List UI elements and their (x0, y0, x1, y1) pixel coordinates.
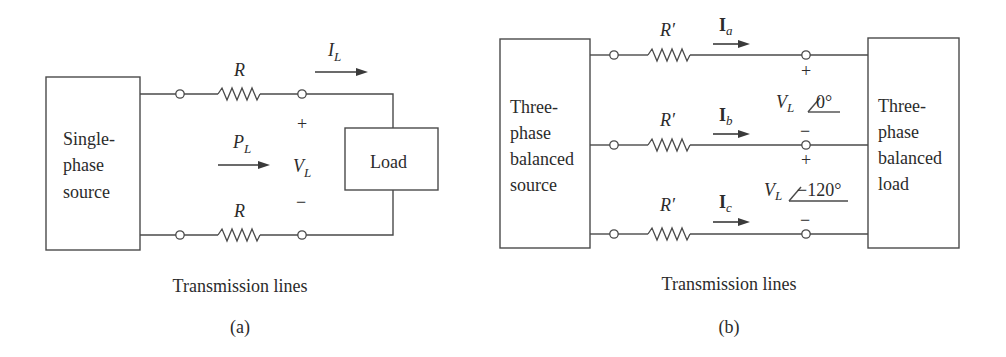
load-b-line4: load (878, 174, 909, 194)
current-a-label: Ia (719, 15, 733, 38)
terminal-b-left (610, 141, 618, 149)
source-label-line3: source (63, 182, 110, 202)
voltage-bc-minus: − (800, 210, 810, 230)
voltage-label: VL (293, 156, 311, 180)
voltage-minus: − (296, 192, 306, 212)
power-arrow-icon (258, 161, 270, 169)
current-c-arrow-icon (738, 218, 750, 226)
load-b-line3: balanced (878, 148, 942, 168)
terminal-b-right (802, 141, 810, 149)
terminal-a-left (610, 51, 618, 59)
current-b-arrow-icon (738, 130, 750, 138)
three-phase-load-box (868, 38, 959, 248)
resistor-c-label: R′ (659, 195, 676, 215)
panel-label-a: (a) (230, 317, 250, 338)
source-b-line2: phase (510, 123, 551, 143)
resistor-a-icon (648, 49, 690, 61)
voltage-ab: + VL 0° − (776, 61, 840, 141)
current-a-arrow-icon (738, 40, 750, 48)
circuit-diagram: Single- phase source R IL Load R PL + (0, 0, 1006, 357)
terminal-bottom-left (176, 231, 184, 239)
resistor-bottom-label: R (233, 201, 245, 221)
panel-a-single-phase: Single- phase source R IL Load R PL + (46, 40, 438, 338)
caption-transmission-lines-b: Transmission lines (662, 274, 797, 294)
load-label: Load (370, 152, 407, 172)
resistor-bottom-icon (218, 229, 260, 241)
panel-b-three-phase: Three- phase balanced source Three- phas… (500, 15, 959, 338)
source-label-line1: Single- (63, 129, 115, 149)
current-c-label: Ic (719, 192, 732, 215)
power-label: PL (232, 132, 251, 156)
terminal-c-right (802, 230, 810, 238)
resistor-c-icon (648, 228, 690, 240)
source-b-line1: Three- (510, 97, 558, 117)
load-b-line2: phase (878, 122, 919, 142)
load-b-line1: Three- (878, 96, 926, 116)
caption-transmission-lines-a: Transmission lines (173, 276, 308, 296)
resistor-b-label: R′ (659, 110, 676, 130)
source-b-line4: source (510, 175, 557, 195)
voltage-bc-label: VL (764, 180, 782, 203)
terminal-top-right (298, 90, 306, 98)
voltage-bc-plus: + (801, 150, 811, 170)
terminal-top-left (176, 90, 184, 98)
source-label-line2: phase (63, 155, 104, 175)
resistor-a-label: R′ (659, 20, 676, 40)
resistor-top-label: R (233, 60, 245, 80)
panel-label-b: (b) (719, 317, 740, 338)
voltage-ab-angle: 0° (816, 92, 832, 112)
voltage-bc-angle: −120° (797, 180, 841, 200)
resistor-top-icon (218, 88, 260, 100)
line-a: R′ Ia (590, 15, 868, 61)
voltage-ab-plus: + (801, 61, 811, 81)
terminal-bottom-right (298, 231, 306, 239)
voltage-ab-minus: − (800, 121, 810, 141)
bottom-wire-load (306, 190, 393, 235)
current-arrow-icon (356, 68, 368, 76)
source-b-line3: balanced (510, 149, 574, 169)
resistor-b-icon (648, 139, 690, 151)
voltage-plus: + (297, 114, 307, 134)
current-b-label: Ib (719, 105, 733, 128)
top-wire-load (306, 94, 393, 128)
three-phase-source-box (500, 39, 590, 248)
terminal-a-right (802, 51, 810, 59)
voltage-bc: + VL −120° − (764, 150, 848, 230)
voltage-ab-label: VL (776, 92, 794, 115)
current-label: IL (327, 40, 341, 64)
terminal-c-left (610, 230, 618, 238)
